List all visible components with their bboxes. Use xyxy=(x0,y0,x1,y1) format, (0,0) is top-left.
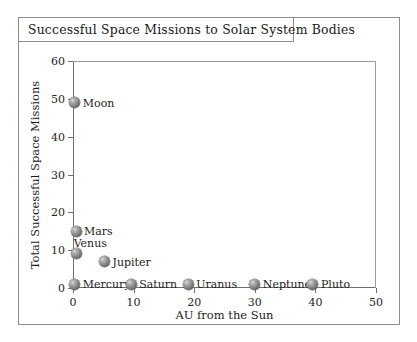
data-point-label: Pluto xyxy=(321,278,350,291)
data-point-marker xyxy=(69,97,80,108)
page-title: Successful Space Missions to Solar Syste… xyxy=(19,22,355,37)
y-axis-tick-label: 30 xyxy=(51,168,65,181)
data-point-label: Neptune xyxy=(263,278,311,291)
y-axis-tick xyxy=(68,61,73,62)
y-axis-tick-label: 0 xyxy=(58,282,65,295)
y-axis-tick-label: 20 xyxy=(51,206,65,219)
y-axis-tick xyxy=(68,212,73,213)
chart-title-box: Successful Space Missions to Solar Syste… xyxy=(19,18,294,42)
data-point-label: Moon xyxy=(83,96,115,109)
data-point-marker xyxy=(126,279,137,290)
data-point-label: Mercury xyxy=(83,278,131,291)
data-point-marker xyxy=(183,279,194,290)
data-point-marker xyxy=(99,256,110,267)
data-point-marker xyxy=(71,226,82,237)
y-axis-tick-label: 10 xyxy=(51,244,65,257)
x-axis-title: AU from the Sun xyxy=(73,308,376,322)
data-point-marker xyxy=(71,248,82,259)
data-point-marker xyxy=(69,279,80,290)
y-axis-tick-label: 60 xyxy=(51,55,65,68)
y-axis-tick xyxy=(68,175,73,176)
chart-figure: Successful Space Missions to Solar Syste… xyxy=(18,17,400,325)
data-point-label: Saturn xyxy=(139,278,177,291)
data-point-label: Uranus xyxy=(196,278,237,291)
plot-top-border xyxy=(73,61,376,62)
data-point-label: Jupiter xyxy=(113,255,151,268)
y-axis-tick-label: 40 xyxy=(51,130,65,143)
x-axis-tick xyxy=(376,288,377,293)
y-axis-title: Total Successful Space Missions xyxy=(27,61,43,288)
data-point-marker xyxy=(249,279,260,290)
plot-right-border xyxy=(375,61,376,288)
data-point-label: Venus xyxy=(74,236,107,249)
plot-area: 0102030405060 01020304050 MoonMarsVenusJ… xyxy=(73,61,376,288)
y-axis-title-text: Total Successful Space Missions xyxy=(28,80,42,268)
data-point-marker xyxy=(307,279,318,290)
y-axis-tick xyxy=(68,137,73,138)
x-axis-tick xyxy=(194,288,195,293)
y-axis-tick-label: 50 xyxy=(51,92,65,105)
